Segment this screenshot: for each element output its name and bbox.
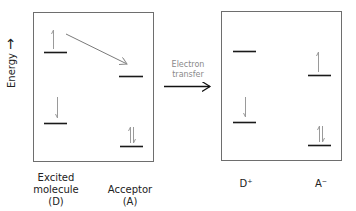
acceptor-label: Acceptor (A) <box>100 184 160 208</box>
electron-transfer-diagonal-arrow <box>66 34 127 64</box>
donor-label-line3: (D) <box>26 196 86 208</box>
donor-upper-level <box>44 30 67 53</box>
donor-cation-lower-level <box>233 97 256 123</box>
acceptor-label-line1: Acceptor <box>100 184 160 196</box>
energy-label: Energy <box>6 53 17 88</box>
electron-transfer-label-line2: transfer <box>162 70 214 80</box>
excited-molecule-label: Excited molecule (D) <box>26 172 86 208</box>
acceptor-anion-label: A⁻ <box>306 178 336 190</box>
donor-label-line1: Excited <box>26 172 86 184</box>
acceptor-anion-upper-level <box>308 52 331 76</box>
electron-transfer-label-line1: Electron <box>162 60 214 70</box>
right-panel-frame <box>222 12 342 161</box>
energy-arrow-icon: → <box>2 39 18 50</box>
acceptor-anion-lower-level <box>308 126 331 146</box>
donor-label-line2: molecule <box>26 184 86 196</box>
acceptor-label-line2: (A) <box>100 196 160 208</box>
electron-transfer-label: Electron transfer <box>162 60 214 80</box>
acceptor-lower-level <box>120 127 143 147</box>
donor-cation-label: D⁺ <box>231 178 261 190</box>
donor-lower-level <box>44 97 67 124</box>
energy-axis-label: Energy → <box>2 28 18 88</box>
